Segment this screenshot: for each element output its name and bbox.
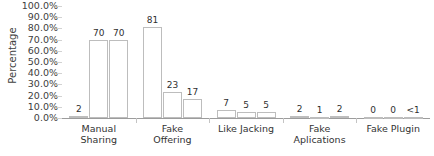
x-axis-category-label: FakeAplications [294, 123, 346, 145]
y-axis-tick-label: 60.0% [28, 46, 58, 56]
bar-value-label: 2 [337, 105, 343, 114]
x-axis-category-label: Fake Plugin [366, 123, 420, 134]
x-axis-group-separator [283, 118, 284, 123]
x-axis-category-label-line: Fake [153, 123, 191, 134]
y-axis-tick-label: 100.0% [22, 1, 58, 11]
bar-value-label: <1 [407, 106, 420, 115]
bar [237, 112, 256, 118]
bar-value-label: 5 [263, 101, 269, 110]
x-axis-category-label-line: Fake [294, 123, 346, 134]
x-axis-category-label-line: Offering [153, 134, 191, 145]
bar [89, 40, 108, 118]
bar [109, 40, 128, 118]
bar-value-label: 70 [93, 29, 104, 38]
bar [310, 117, 329, 119]
bar-value-label: 0 [370, 106, 376, 115]
bar [69, 116, 88, 118]
x-axis-category-label-line: Sharing [81, 134, 117, 145]
bar [364, 117, 383, 119]
y-axis-tick-label: 50.0% [28, 57, 58, 67]
bar [143, 27, 162, 118]
bar [163, 92, 182, 118]
bar-value-label: 17 [187, 88, 198, 97]
x-axis-group-separator [136, 118, 137, 123]
x-axis-category-label-line: Aplications [294, 134, 346, 145]
y-axis-tick-label: 10.0% [28, 102, 58, 112]
bar-value-label: 1 [317, 106, 323, 115]
x-axis-category-label: ManualSharing [81, 123, 117, 145]
x-axis-category-label-line: Fake Plugin [366, 123, 420, 134]
y-axis-tick-label: 0.0% [34, 113, 58, 123]
x-axis-category-label: FakeOffering [153, 123, 191, 145]
bar-value-label: 5 [243, 101, 249, 110]
y-axis-tick-label: 30.0% [28, 80, 58, 90]
bar-value-label: 2 [76, 105, 82, 114]
y-axis-tick-label: 70.0% [28, 35, 58, 45]
y-axis-tick-label: 80.0% [28, 24, 58, 34]
x-axis-category-labels: ManualSharingFakeOfferingLike JackingFak… [62, 123, 430, 156]
bar-value-label: 0 [390, 106, 396, 115]
bar [257, 112, 276, 118]
x-axis-group-separator [209, 118, 210, 123]
bar [404, 117, 423, 119]
x-axis-category-label-line: Manual [81, 123, 117, 134]
bar [217, 110, 236, 118]
bar [183, 99, 202, 118]
bar-value-label: 23 [167, 81, 178, 90]
bar-value-label: 70 [113, 29, 124, 38]
bar [330, 116, 349, 118]
y-axis-tick-label: 40.0% [28, 68, 58, 78]
x-axis-group-separator [356, 118, 357, 123]
y-axis-tick-labels: 0.0%10.0%20.0%30.0%40.0%50.0%60.0%70.0%8… [14, 0, 58, 126]
y-axis-tick-label: 20.0% [28, 91, 58, 101]
bar-value-label: 2 [297, 105, 303, 114]
x-axis-category-label: Like Jacking [218, 123, 274, 134]
x-axis-category-label-line: Like Jacking [218, 123, 274, 134]
bar [384, 117, 403, 119]
bar [290, 116, 309, 118]
bar-value-label: 7 [223, 99, 229, 108]
y-axis-tick-label: 90.0% [28, 12, 58, 22]
bar-chart: Percentage 0.0%10.0%20.0%30.0%40.0%50.0%… [0, 0, 434, 156]
bar-value-label: 81 [147, 16, 158, 25]
